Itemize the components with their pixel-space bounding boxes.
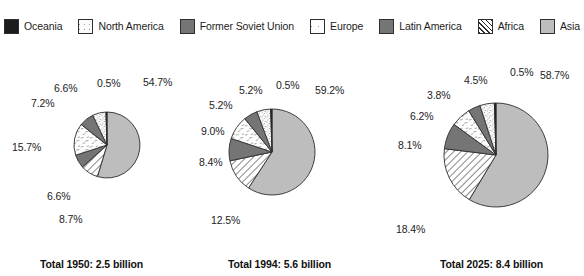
slice-value-label-africa: 8.7% — [59, 214, 83, 225]
slice-value-label-latin-america: 8.4% — [199, 157, 223, 168]
legend-item-label: Asia — [560, 21, 580, 32]
pie-caption-1994: Total 1994: 5.6 billion — [228, 259, 331, 270]
slice-value-label-asia: 58.7% — [540, 70, 569, 81]
sparse-dash-swatch — [310, 19, 325, 34]
slice-value-label-north-america: 5.2% — [239, 85, 263, 96]
pie-caption-1950: Total 1950: 2.5 billion — [40, 259, 143, 270]
slice-value-label-fsu: 3.8% — [427, 90, 451, 101]
legend-item-label: Latin America — [399, 21, 461, 32]
pie-caption-2025: Total 2025: 8.4 billion — [440, 259, 543, 270]
legend-item-africa: Africa — [478, 19, 524, 34]
legend-item-label: Europe — [330, 21, 363, 32]
dark-gray-swatch — [379, 19, 394, 34]
legend-item-europe: Europe — [310, 19, 363, 34]
legend-item-label: Oceania — [24, 21, 62, 32]
legend-item-oceania: Oceania — [4, 19, 62, 34]
solid-black-swatch — [4, 19, 19, 34]
legend-item-label: Former Soviet Union — [200, 21, 294, 32]
slice-value-label-latin-america: 6.6% — [47, 191, 71, 202]
slice-value-label-asia: 59.2% — [315, 85, 344, 96]
legend-item-fsu: Former Soviet Union — [180, 19, 294, 34]
slice-value-label-africa: 12.5% — [211, 215, 240, 226]
slice-value-label-oceania: 0.5% — [510, 67, 534, 78]
slice-value-label-europe: 6.2% — [410, 111, 434, 122]
legend-item-asia: Asia — [540, 19, 580, 34]
pie-chart-1950 — [71, 109, 143, 181]
slice-value-label-europe: 9.0% — [201, 126, 225, 137]
legend-item-north-america: North America — [78, 19, 163, 34]
pie-charts-container: 54.7%8.7%6.6%15.7%7.2%6.6%0.5%Total 1950… — [0, 40, 584, 276]
slice-value-label-north-america: 4.5% — [464, 75, 488, 86]
diagonal-hatch-swatch — [478, 19, 493, 34]
slice-value-label-fsu: 5.2% — [209, 100, 233, 111]
dark-gray-swatch — [180, 19, 195, 34]
slice-value-label-asia: 54.7% — [143, 77, 172, 88]
slice-value-label-europe: 15.7% — [12, 142, 41, 153]
light-gray-swatch — [540, 19, 555, 34]
pie-chart-2025 — [441, 100, 551, 210]
legend-item-latin-america: Latin America — [379, 19, 461, 34]
slice-value-label-fsu: 7.2% — [31, 98, 55, 109]
slice-value-label-north-america: 6.6% — [54, 83, 78, 94]
slice-value-label-oceania: 0.5% — [276, 80, 300, 91]
pie-chart-1994 — [226, 106, 318, 198]
slice-value-label-latin-america: 8.1% — [398, 140, 422, 151]
legend-item-label: Africa — [498, 21, 524, 32]
legend-item-label: North America — [98, 21, 163, 32]
slice-value-label-oceania: 0.5% — [97, 78, 121, 89]
light-stipple-swatch — [78, 19, 93, 34]
legend: OceaniaNorth AmericaFormer Soviet UnionE… — [0, 15, 584, 37]
slice-value-label-africa: 18.4% — [396, 224, 425, 235]
